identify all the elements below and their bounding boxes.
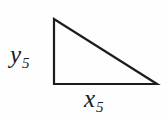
horizontal-leg-label: x5 xyxy=(84,86,103,111)
horizontal-leg-variable: x xyxy=(84,85,95,112)
horizontal-leg-subscript: 5 xyxy=(96,99,104,115)
vertical-leg-variable: y xyxy=(10,41,21,68)
vertical-leg-subscript: 5 xyxy=(22,55,30,71)
right-triangle-figure: y5 x5 xyxy=(0,0,166,118)
triangle-outline xyxy=(54,19,157,84)
vertical-leg-label: y5 xyxy=(10,42,29,67)
